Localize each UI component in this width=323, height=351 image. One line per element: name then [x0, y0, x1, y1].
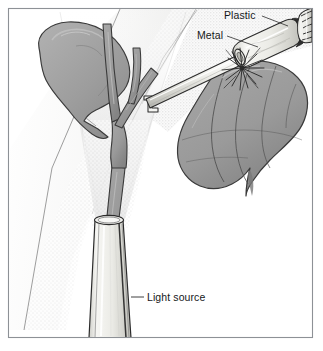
- label-plastic-text: Plastic: [224, 9, 256, 21]
- label-light-source-text: Light source: [147, 291, 205, 303]
- illustration-figure: Plastic Metal Light source: [0, 0, 323, 351]
- illustration-canvas: Plastic Metal Light source: [0, 0, 323, 351]
- label-metal-text: Metal: [197, 29, 223, 41]
